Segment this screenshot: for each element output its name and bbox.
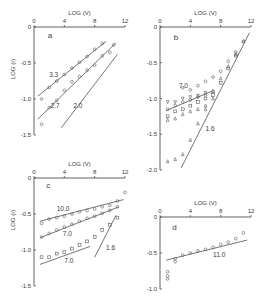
data-point <box>189 138 192 141</box>
line-label: 7.0 <box>64 257 73 264</box>
data-point <box>227 241 230 244</box>
panel-letter: d <box>172 223 176 232</box>
data-point <box>86 240 89 243</box>
data-point <box>181 97 184 100</box>
data-point <box>108 51 111 54</box>
line-label: 3.3 <box>49 71 58 78</box>
data-point <box>166 160 169 163</box>
panel-letter: a <box>48 31 53 40</box>
data-point <box>181 108 184 111</box>
data-point <box>219 243 222 246</box>
panel-letter: c <box>46 181 50 190</box>
data-point <box>219 81 222 84</box>
data-point <box>166 118 169 121</box>
data-point <box>166 278 169 281</box>
data-point <box>181 101 184 104</box>
data-point <box>204 97 207 100</box>
line-label: 2.0 <box>73 102 82 109</box>
data-point <box>242 231 245 234</box>
x-tick-label: 4 <box>63 18 67 24</box>
x-tick-label: 4 <box>189 208 193 214</box>
panel-c: LOG (V)048120-0.5-1.0-1.5LOG (r)10.07.07… <box>10 161 129 289</box>
data-point <box>189 110 192 113</box>
x-tick-label: 4 <box>189 18 193 24</box>
data-point <box>219 77 222 80</box>
data-point <box>40 222 43 225</box>
line-label: 7.0 <box>63 230 72 237</box>
data-point <box>181 113 184 116</box>
x-tick-label: 12 <box>248 18 255 24</box>
x-tick-label: 8 <box>93 18 97 24</box>
x-tick-label: 0 <box>32 169 36 175</box>
y-tick-label: -1.0 <box>21 247 32 253</box>
data-point <box>189 96 192 99</box>
y-tick-label: -1.0 <box>147 286 158 292</box>
figure-canvas: LOG (V)048120-0.5-1.0-1.5LOG (r)3.32.72.… <box>0 0 267 306</box>
data-point <box>101 228 104 231</box>
data-point <box>108 204 111 207</box>
line-label: 7.0 <box>179 82 188 89</box>
data-point <box>40 123 43 126</box>
y-axis-label: LOG (r) <box>10 210 16 230</box>
fit-line <box>61 54 117 127</box>
data-point <box>227 60 230 63</box>
data-point <box>197 122 200 125</box>
data-point <box>78 75 81 78</box>
x-axis-label: LOG (V) <box>68 10 90 16</box>
x-axis-label: LOG (V) <box>68 161 90 167</box>
data-point <box>204 108 207 111</box>
data-point <box>212 97 215 100</box>
data-point <box>174 260 177 263</box>
data-point <box>86 209 89 212</box>
x-tick-label: 0 <box>158 18 162 24</box>
data-point <box>55 252 58 255</box>
data-point <box>93 208 96 211</box>
data-point <box>219 70 222 73</box>
data-point <box>101 205 104 208</box>
line-label: 11.0 <box>213 251 226 258</box>
data-point <box>93 236 96 239</box>
y-tick-label: 0 <box>154 24 158 30</box>
x-tick-label: 0 <box>158 208 162 214</box>
x-tick-label: 8 <box>219 208 223 214</box>
y-tick-label: -1.0 <box>21 96 32 102</box>
data-point <box>40 98 43 101</box>
panel-d: LOG (V)048120-0.5-1.011.0d <box>147 200 255 292</box>
line-label: 1.6 <box>106 244 115 251</box>
caption-remnant <box>8 298 248 300</box>
x-tick-label: 12 <box>122 169 129 175</box>
data-point <box>212 76 215 79</box>
y-tick-label: -1.5 <box>147 131 158 137</box>
x-tick-label: 12 <box>248 208 255 214</box>
y-tick-label: -1.5 <box>21 283 32 289</box>
data-point <box>78 244 81 247</box>
data-point <box>189 104 192 107</box>
data-point <box>71 80 74 83</box>
data-point <box>197 84 200 87</box>
data-point <box>63 251 66 254</box>
data-point <box>166 275 169 278</box>
x-axis-label: LOG (V) <box>194 200 216 206</box>
data-point <box>166 115 169 118</box>
data-point <box>234 237 237 240</box>
data-point <box>166 270 169 273</box>
data-point <box>174 110 177 113</box>
data-point <box>71 247 74 250</box>
panel-b: LOG (V)048120-0.5-1.0-1.5-2.07.01.6b <box>147 10 255 173</box>
line-label: 1.6 <box>206 125 215 132</box>
data-point <box>166 101 169 104</box>
x-axis-label: LOG (V) <box>194 10 216 16</box>
data-point <box>63 89 66 92</box>
data-point <box>93 64 96 67</box>
y-tick-label: -0.5 <box>147 60 158 66</box>
panel-a: LOG (V)048120-0.5-1.0-1.5LOG (r)3.32.72.… <box>10 10 129 138</box>
data-point <box>212 94 215 97</box>
data-point <box>189 89 192 92</box>
data-point <box>55 228 58 231</box>
y-tick-label: -1.0 <box>147 96 158 102</box>
x-tick-label: 4 <box>63 169 67 175</box>
data-point <box>197 249 200 252</box>
y-tick-label: -0.5 <box>21 211 32 217</box>
y-tick-label: 0 <box>28 175 32 181</box>
y-tick-label: -0.5 <box>147 250 158 256</box>
